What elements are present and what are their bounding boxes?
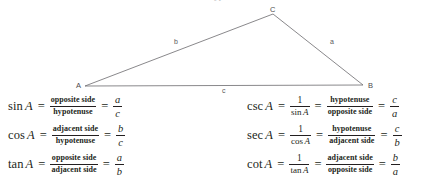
formula-column-primary: sinA = opposite side hypotenuse = a c co… xyxy=(8,92,125,179)
formula-row-sec: secA = 1 cosA = hypotenuse adjacent side… xyxy=(247,121,402,150)
function-name-csc: cscA xyxy=(247,99,273,114)
fraction-bar xyxy=(393,135,402,136)
equals-sign: = xyxy=(374,157,391,172)
fraction-bar xyxy=(390,106,399,107)
equals-sign: = xyxy=(33,157,50,172)
equals-sign: = xyxy=(33,99,50,114)
vertex-label-a: A xyxy=(76,82,81,90)
reciprocal-sec: 1 cosA xyxy=(290,124,311,147)
function-name-sec: secA xyxy=(247,128,273,143)
equals-sign: = xyxy=(99,128,116,143)
ratio-letters-cos: b c xyxy=(116,123,125,149)
formula-column-reciprocal: cscA = 1 sinA = hypotenuse opposite side… xyxy=(247,92,402,179)
fraction-bar xyxy=(113,106,122,107)
ratio-letters-sin: a c xyxy=(113,94,122,120)
equals-sign: = xyxy=(98,157,115,172)
ratio-words-sec: hypotenuse adjacent side xyxy=(328,125,375,145)
triangle-diagram: A B C a b c xyxy=(0,0,433,96)
equals-sign: = xyxy=(96,99,113,114)
reciprocal-cot: 1 tanA xyxy=(289,153,309,176)
reciprocal-csc: 1 sinA xyxy=(290,95,310,118)
equals-sign: = xyxy=(272,157,289,172)
side-label-a: a xyxy=(330,38,334,45)
equals-sign: = xyxy=(35,128,52,143)
ratio-letters-tan: a b xyxy=(115,152,124,178)
triangle-shape xyxy=(85,14,363,86)
function-name-cos: cosA xyxy=(8,128,35,143)
formula-row-csc: cscA = 1 sinA = hypotenuse opposite side… xyxy=(247,92,402,121)
function-name-sin: sinA xyxy=(8,99,33,114)
function-name-tan: tanA xyxy=(8,157,33,172)
equals-sign: = xyxy=(373,99,390,114)
function-name-cot: cotA xyxy=(247,157,272,172)
vertex-label-b: B xyxy=(368,82,373,90)
equals-sign: = xyxy=(309,157,326,172)
trig-formula-block: sinA = opposite side hypotenuse = a c co… xyxy=(0,92,433,183)
formula-row-cos: cosA = adjacent side hypotenuse = b c xyxy=(8,121,125,150)
ratio-words-csc: hypotenuse opposite side xyxy=(327,96,373,116)
ratio-words-tan: opposite side adjacent side xyxy=(50,154,97,174)
equals-sign: = xyxy=(273,99,290,114)
fraction-bar xyxy=(115,164,124,165)
formula-row-sin: sinA = opposite side hypotenuse = a c xyxy=(8,92,125,121)
ratio-words-cot: adjacent side opposite side xyxy=(326,154,373,174)
vertex-label-c: C xyxy=(270,6,275,14)
fraction-bar xyxy=(116,135,125,136)
formula-row-cot: cotA = 1 tanA = adjacent side opposite s… xyxy=(247,150,402,179)
ratio-letters-sec: c b xyxy=(393,123,402,149)
formula-row-tan: tanA = opposite side adjacent side = a b xyxy=(8,150,125,179)
ratio-words-cos: adjacent side hypotenuse xyxy=(52,125,99,145)
ratio-letters-csc: c a xyxy=(390,94,399,120)
equals-sign: = xyxy=(273,128,290,143)
equals-sign: = xyxy=(310,99,327,114)
equals-sign: = xyxy=(375,128,392,143)
fraction-bar xyxy=(391,164,400,165)
side-label-b: b xyxy=(174,38,178,45)
equals-sign: = xyxy=(311,128,328,143)
ratio-words-sin: opposite side hypotenuse xyxy=(50,96,96,116)
ratio-letters-cot: b a xyxy=(391,152,400,178)
